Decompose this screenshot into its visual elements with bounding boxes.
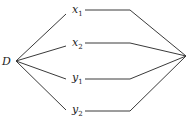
- svg-text:x1: x1: [72, 3, 83, 18]
- edge-x2-sink: [85, 43, 186, 56]
- edge-d-y1: [16, 61, 66, 79]
- branch-label-x1: x1: [72, 3, 83, 18]
- branch-label-y1: y1: [71, 71, 83, 86]
- edges-from-d: [16, 14, 66, 110]
- svg-text:x2: x2: [72, 36, 83, 51]
- branch-label-y2: y2: [71, 103, 83, 118]
- node-d-label: D: [1, 55, 11, 68]
- edges-to-sink: [85, 10, 186, 111]
- edge-d-y2: [16, 61, 66, 110]
- svg-text:y2: y2: [71, 103, 83, 118]
- edge-y1-sink: [85, 56, 186, 79]
- branch-label-x2: x2: [72, 36, 83, 51]
- edge-x1-sink: [85, 10, 186, 56]
- network-diagram: D x1 x2 y1 y2: [0, 0, 192, 120]
- svg-text:y1: y1: [71, 71, 83, 86]
- edge-y2-sink: [85, 56, 186, 111]
